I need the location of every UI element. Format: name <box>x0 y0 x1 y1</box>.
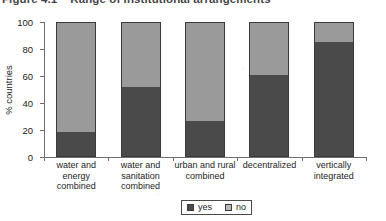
figure-title-row: Figure 4.1Range of institutional arrange… <box>2 0 271 5</box>
y-tick-label-80: 80 <box>22 44 33 55</box>
bar-slot <box>302 22 366 157</box>
y-tick-label-40: 40 <box>22 98 33 109</box>
legend-label-yes: yes <box>198 202 212 212</box>
bar-segment-no <box>315 23 353 42</box>
bar-segment-yes <box>250 75 288 156</box>
x-category-label: urban and rural combined <box>173 160 237 192</box>
legend-item-yes: yes <box>187 202 212 212</box>
y-tick-label-0: 0 <box>28 152 33 163</box>
x-tick-end <box>366 157 367 161</box>
plot-area: % countries 0 20 40 60 80 100 <box>44 22 366 157</box>
stacked-bar[interactable] <box>121 22 161 157</box>
bar-slot <box>108 22 172 157</box>
bar-segment-no <box>250 23 288 75</box>
legend-swatch-no-icon <box>225 204 232 211</box>
x-category-label: water and sanitation combined <box>108 160 172 192</box>
y-axis-title: % countries <box>3 65 14 115</box>
figure-title-text: Range of institutional arrangements <box>70 0 270 5</box>
y-tick-label-20: 20 <box>22 125 33 136</box>
x-category-label: water and energy combined <box>44 160 108 192</box>
stacked-bar[interactable] <box>56 22 96 157</box>
bar-segment-no <box>122 23 160 87</box>
figure-title-clip: Figure 4.1Range of institutional arrange… <box>0 0 386 11</box>
stacked-bar[interactable] <box>185 22 225 157</box>
y-tick-label-100: 100 <box>17 17 33 28</box>
legend: yes no <box>181 200 252 215</box>
figure-number: Figure 4.1 <box>2 0 57 5</box>
bar-segment-yes <box>57 132 95 156</box>
x-axis-line <box>44 157 366 158</box>
bar-segment-yes <box>122 87 160 156</box>
y-tick-label-60: 60 <box>22 71 33 82</box>
bar-slot <box>44 22 108 157</box>
bar-group <box>44 22 366 157</box>
figure-container: Figure 4.1Range of institutional arrange… <box>0 0 386 221</box>
bar-slot <box>237 22 301 157</box>
x-category-label: vertically integrated <box>302 160 366 192</box>
legend-swatch-yes-icon <box>187 204 194 211</box>
bar-segment-yes <box>315 42 353 156</box>
bar-slot <box>173 22 237 157</box>
x-category-label: decentralized <box>237 160 301 192</box>
bar-segment-yes <box>186 121 224 156</box>
stacked-bar[interactable] <box>249 22 289 157</box>
stacked-bar[interactable] <box>314 22 354 157</box>
legend-label-no: no <box>236 202 246 212</box>
x-axis-category-labels: water and energy combinedwater and sanit… <box>44 160 366 192</box>
legend-item-no: no <box>225 202 246 212</box>
bar-segment-no <box>57 23 95 132</box>
bar-segment-no <box>186 23 224 121</box>
